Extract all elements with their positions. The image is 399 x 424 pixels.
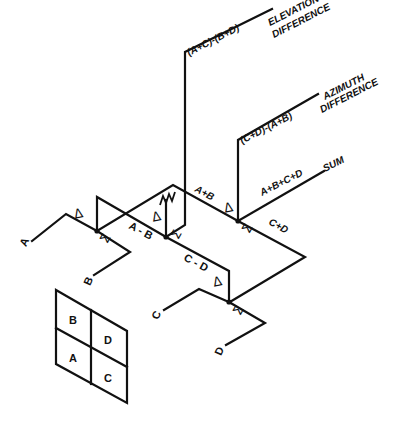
sum-label: SUM	[321, 154, 346, 174]
c-plus-d-label: C+D	[267, 216, 290, 235]
input-b-label: B	[81, 275, 95, 287]
sigma-symbol: Σ	[97, 231, 114, 246]
a-plus-b-label: A+B	[192, 183, 216, 203]
sigma-symbol: Σ	[239, 221, 256, 236]
horn-cell-c: C	[104, 372, 112, 384]
a-minus-b-label: A - B	[127, 219, 155, 241]
azimuth-expression: (C+D)-(A+B)	[238, 110, 295, 146]
horn-cell-b: B	[69, 314, 77, 326]
sum-expression: A+B+C+D	[257, 167, 304, 198]
input-d-label: D	[212, 345, 226, 357]
input-a-line	[32, 214, 97, 241]
delta-symbol: Δ	[211, 273, 223, 290]
horn-cell-a: A	[69, 352, 77, 364]
azimuth-output-line	[238, 94, 318, 221]
horn-cell-d: D	[104, 334, 112, 346]
hybrid-cd	[164, 289, 265, 345]
elevation-expression: (A+C)-(B+D)	[185, 22, 242, 58]
input-c-label: C	[149, 309, 163, 321]
elevation-output-line	[166, 9, 272, 237]
c-minus-d-label: C - D	[182, 251, 210, 274]
c-plus-d-line	[230, 221, 305, 302]
delta-symbol: Δ	[222, 199, 234, 216]
hybrid-node	[226, 299, 231, 304]
delta-symbol: Δ	[150, 208, 162, 225]
resistor-load-icon	[160, 192, 175, 205]
input-c-line	[164, 289, 229, 310]
horn-grid: B D A C	[56, 290, 127, 403]
delta-symbol: Δ	[72, 205, 84, 222]
hybrid-node	[235, 218, 240, 223]
monopulse-comparator-diagram: Δ Σ Δ Σ Δ Σ Δ Σ A - B A+B C - D C+D A B …	[0, 0, 399, 424]
input-a-label: A	[17, 236, 31, 248]
sigma-symbol: Σ	[230, 303, 247, 318]
